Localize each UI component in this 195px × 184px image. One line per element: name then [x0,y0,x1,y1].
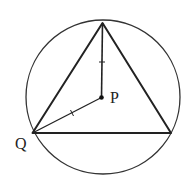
label-q: Q [15,135,27,152]
center-point-p [99,95,104,100]
geometry-diagram: P Q [0,0,195,184]
label-p: P [110,89,119,106]
segment-p-top [102,23,103,98]
